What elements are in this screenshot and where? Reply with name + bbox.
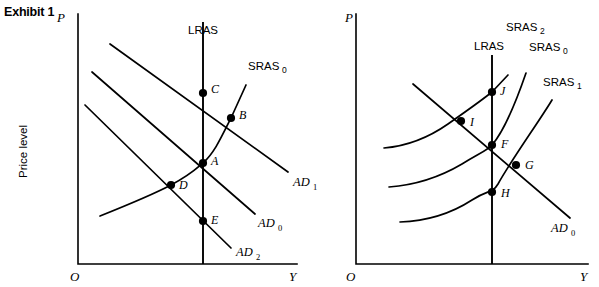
- left-panel-ad0-label: AD: [257, 216, 275, 230]
- left-panel-point-B: B: [227, 108, 247, 122]
- figure-title: Exhibit 1: [4, 5, 55, 19]
- left-panel-sras0-sublabel: 0: [282, 65, 287, 75]
- right-panel-point-J-label: J: [500, 84, 506, 98]
- left-panel-point-E-label: E: [210, 213, 219, 227]
- left-panel-point-C-marker: [199, 89, 207, 97]
- right-panel-sras1-label: SRAS: [543, 76, 575, 88]
- exhibit-figure: Exhibit 1 Price level P Y O LRAS SRAS 0: [0, 0, 599, 287]
- left-panel-point-C-label: C: [211, 82, 220, 96]
- right-panel-point-H-marker: [488, 188, 496, 196]
- left-panel-point-A-marker: [199, 159, 207, 167]
- left-panel-ad1-label-group: AD 1: [292, 175, 317, 192]
- left-panel-point-D-label: D: [178, 178, 188, 192]
- left-panel-lras-label: LRAS: [188, 24, 218, 36]
- left-panel-point-D-marker: [167, 181, 175, 189]
- left-panel-sras0-curve: [100, 85, 246, 216]
- y-axis-caption: Price level: [17, 125, 29, 178]
- left-panel-point-E-marker: [199, 217, 207, 225]
- right-panel-point-I: I: [457, 115, 475, 129]
- right-panel-sras2-label-group: SRAS 2: [506, 21, 545, 36]
- right-panel-point-I-label: I: [469, 115, 475, 129]
- right-panel-sras0-label-group: SRAS 0: [529, 41, 568, 56]
- right-panel-sras0-label: SRAS: [529, 41, 561, 53]
- left-panel-origin-symbol: O: [70, 269, 80, 284]
- right-panel-point-H-label: H: [500, 186, 511, 200]
- right-panel-y-axis-symbol: P: [344, 10, 353, 25]
- right-panel-origin-symbol: O: [346, 269, 356, 284]
- right-panel: P Y O LRAS SRAS 2 SRAS 0 SRAS 1: [344, 10, 589, 284]
- left-panel-ad0-label-group: AD 0: [257, 216, 282, 233]
- right-panel-point-I-marker: [457, 117, 465, 125]
- left-panel-point-B-marker: [227, 114, 235, 122]
- right-panel-ad0-sublabel: 0: [571, 228, 575, 238]
- left-panel-ad2-sublabel: 2: [256, 252, 260, 262]
- right-panel-point-G-marker: [512, 161, 520, 169]
- right-panel-sras0-sublabel: 0: [563, 46, 568, 56]
- right-panel-point-F-marker: [488, 141, 496, 149]
- left-panel: P Y O LRAS SRAS 0 AD 1 AD 0: [56, 10, 317, 284]
- right-panel-point-G: G: [512, 158, 534, 172]
- left-panel-ad2-label-group: AD 2: [235, 245, 260, 262]
- left-panel-point-D: D: [167, 178, 188, 192]
- left-panel-x-axis-symbol: Y: [289, 269, 298, 284]
- right-panel-point-J-marker: [488, 88, 496, 96]
- right-panel-point-G-label: G: [525, 158, 534, 172]
- left-panel-sras0-label: SRAS: [248, 60, 280, 72]
- left-panel-point-E: E: [199, 213, 219, 227]
- left-panel-ad1-label: AD: [292, 175, 310, 189]
- right-panel-lras-label: LRAS: [474, 40, 504, 52]
- right-panel-ad0-label: AD: [550, 221, 568, 235]
- left-panel-ad2-curve: [85, 105, 231, 248]
- right-panel-ad0-label-group: AD 0: [550, 221, 575, 238]
- right-panel-sras2-label: SRAS: [506, 21, 538, 33]
- right-panel-x-axis-symbol: Y: [580, 269, 589, 284]
- left-panel-point-A-label: A: [210, 154, 219, 168]
- left-panel-point-B-label: B: [239, 108, 247, 122]
- aggregate-supply-demand-diagram: Exhibit 1 Price level P Y O LRAS SRAS 0: [0, 0, 599, 287]
- left-panel-sras0-label-group: SRAS 0: [248, 60, 287, 75]
- left-panel-ad2-label: AD: [235, 245, 253, 259]
- left-panel-ad0-sublabel: 0: [278, 223, 282, 233]
- right-panel-sras1-label-group: SRAS 1: [543, 76, 582, 91]
- left-panel-ad1-sublabel: 1: [313, 182, 317, 192]
- right-panel-sras1-sublabel: 1: [577, 81, 582, 91]
- right-panel-sras2-sublabel: 2: [540, 26, 545, 36]
- right-panel-point-F-label: F: [500, 137, 509, 151]
- left-panel-y-axis-symbol: P: [56, 10, 65, 25]
